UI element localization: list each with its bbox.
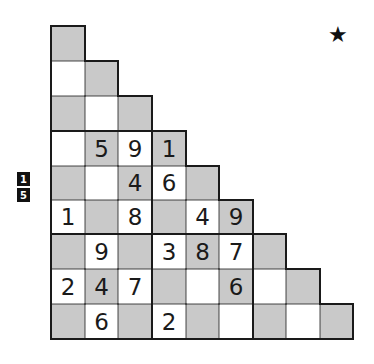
grid-cell[interactable]	[320, 304, 353, 339]
grid-cell[interactable]	[85, 166, 118, 200]
grid-cell[interactable]: 4	[186, 200, 219, 234]
star-icon: ★	[328, 24, 348, 46]
grid-cell[interactable]: 9	[85, 234, 118, 269]
grid-cell[interactable]: 4	[85, 269, 118, 304]
grid-cell[interactable]	[51, 96, 85, 131]
grid-cell[interactable]: 7	[219, 234, 253, 269]
grid-cell[interactable]: 4	[118, 166, 152, 200]
grid-cell[interactable]	[118, 234, 152, 269]
badge-2: 5	[17, 188, 30, 202]
grid-cell[interactable]: 2	[152, 304, 186, 339]
grid-cell[interactable]	[253, 269, 286, 304]
grid-cell[interactable]	[286, 304, 320, 339]
grid-cell[interactable]	[152, 200, 186, 234]
grid-cell[interactable]: 6	[152, 166, 186, 200]
grid-cell[interactable]	[51, 61, 85, 96]
grid-cell[interactable]	[253, 304, 286, 339]
grid-cell[interactable]	[85, 200, 118, 234]
grid-cell[interactable]	[51, 304, 85, 339]
grid-cell[interactable]	[85, 96, 118, 131]
grid-cell[interactable]: 2	[51, 269, 85, 304]
grid-cell[interactable]	[51, 166, 85, 200]
grid-cell[interactable]	[152, 269, 186, 304]
grid-cell[interactable]: 5	[85, 131, 118, 166]
grid-cell[interactable]	[51, 26, 85, 61]
grid-cell[interactable]: 3	[152, 234, 186, 269]
grid-cell[interactable]	[286, 269, 320, 304]
grid-cell[interactable]	[219, 304, 253, 339]
grid-cell[interactable]: 1	[152, 131, 186, 166]
grid-cell[interactable]	[253, 234, 286, 269]
grid-cell[interactable]	[51, 234, 85, 269]
grid-cell[interactable]: 9	[118, 131, 152, 166]
grid-cell[interactable]	[118, 304, 152, 339]
grid-cell[interactable]: 6	[85, 304, 118, 339]
grid-cell[interactable]: 8	[118, 200, 152, 234]
grid-cell[interactable]: 8	[186, 234, 219, 269]
grid-cell[interactable]	[85, 61, 118, 96]
badge-1: 1	[17, 172, 30, 186]
grid-cell[interactable]: 7	[118, 269, 152, 304]
grid-cell[interactable]: 6	[219, 269, 253, 304]
grid-cell[interactable]	[186, 269, 219, 304]
grid-cell[interactable]	[51, 131, 85, 166]
grid-cell[interactable]	[186, 304, 219, 339]
grid-cell[interactable]	[118, 96, 152, 131]
grid-cell[interactable]: 9	[219, 200, 253, 234]
grid-cell[interactable]	[186, 166, 219, 200]
grid-cell[interactable]: 1	[51, 200, 85, 234]
